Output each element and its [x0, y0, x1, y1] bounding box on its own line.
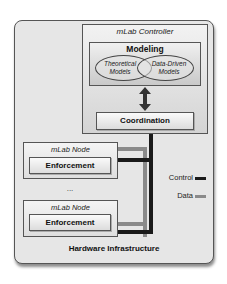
- node-2-title: mLab Node: [23, 203, 118, 212]
- modeling-title: Modeling: [89, 44, 201, 54]
- data-driven-line2: Models: [145, 68, 193, 76]
- legend-control-label: Control: [150, 173, 193, 182]
- control-line-to-node-2: [117, 230, 153, 234]
- enforcement-label-2: Enforcement: [29, 218, 111, 227]
- coordination-label: Coordination: [96, 116, 194, 125]
- legend-data-label: Data: [150, 191, 193, 200]
- theoretical-line1: Theoretical: [97, 60, 143, 68]
- theoretical-models-label: Theoretical Models: [97, 60, 143, 76]
- theoretical-line2: Models: [97, 68, 143, 76]
- ellipsis: ...: [60, 184, 80, 193]
- data-driven-line1: Data-Driven: [145, 60, 193, 68]
- bidirectional-arrow-icon: [138, 87, 152, 111]
- control-line-to-node-1: [117, 158, 153, 162]
- legend-data-swatch: [195, 195, 206, 198]
- controller-title: mLab Controller: [82, 27, 208, 36]
- hardware-infrastructure-label: Hardware Infrastructure: [14, 244, 214, 253]
- node-1-title: mLab Node: [23, 145, 118, 154]
- control-line-vertical: [149, 133, 153, 233]
- data-driven-models-label: Data-Driven Models: [145, 60, 193, 76]
- data-line-to-node-2: [117, 222, 147, 226]
- enforcement-label-1: Enforcement: [29, 161, 111, 170]
- legend-control-swatch: [195, 177, 206, 180]
- data-line-to-node-1: [117, 147, 147, 151]
